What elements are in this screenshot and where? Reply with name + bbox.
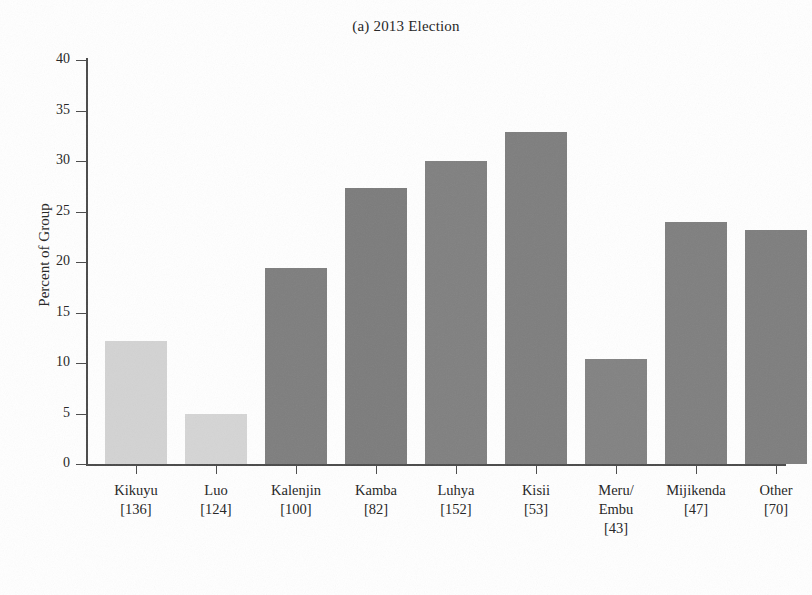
- y-axis-tick: [76, 464, 86, 465]
- figure-2013-election: (a) 2013 Election Percent of Group 05101…: [0, 0, 812, 595]
- x-axis-line: [86, 464, 786, 466]
- x-axis-tick: [616, 465, 617, 474]
- x-axis-tick: [216, 465, 217, 474]
- bar: [745, 230, 807, 464]
- x-axis-tick: [136, 465, 137, 474]
- bars-layer: [0, 0, 812, 464]
- x-axis-tick: [696, 465, 697, 474]
- x-axis-tick: [456, 465, 457, 474]
- x-axis-label-count: [70]: [721, 500, 812, 519]
- bar: [665, 222, 727, 464]
- x-axis-label-name: Other: [721, 481, 812, 500]
- x-axis-tick: [776, 465, 777, 474]
- x-axis-tick: [296, 465, 297, 474]
- bar: [505, 132, 567, 464]
- bar: [185, 414, 247, 465]
- bar: [425, 161, 487, 464]
- x-axis-tick: [376, 465, 377, 474]
- bar: [265, 268, 327, 464]
- x-axis-label-count: [43]: [561, 519, 671, 538]
- x-axis-label: Other[70]: [721, 481, 812, 519]
- bar: [345, 188, 407, 464]
- bar: [105, 341, 167, 464]
- bar: [585, 359, 647, 464]
- x-axis-tick: [536, 465, 537, 474]
